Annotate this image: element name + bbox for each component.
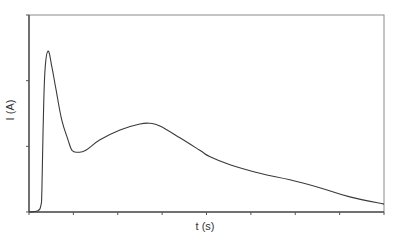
y-axis-label: I (A) <box>4 100 16 121</box>
current-curve <box>29 51 384 212</box>
current-time-chart: t (s) I (A) <box>0 0 398 241</box>
plot-frame <box>29 15 384 212</box>
x-axis-label: t (s) <box>196 220 215 232</box>
